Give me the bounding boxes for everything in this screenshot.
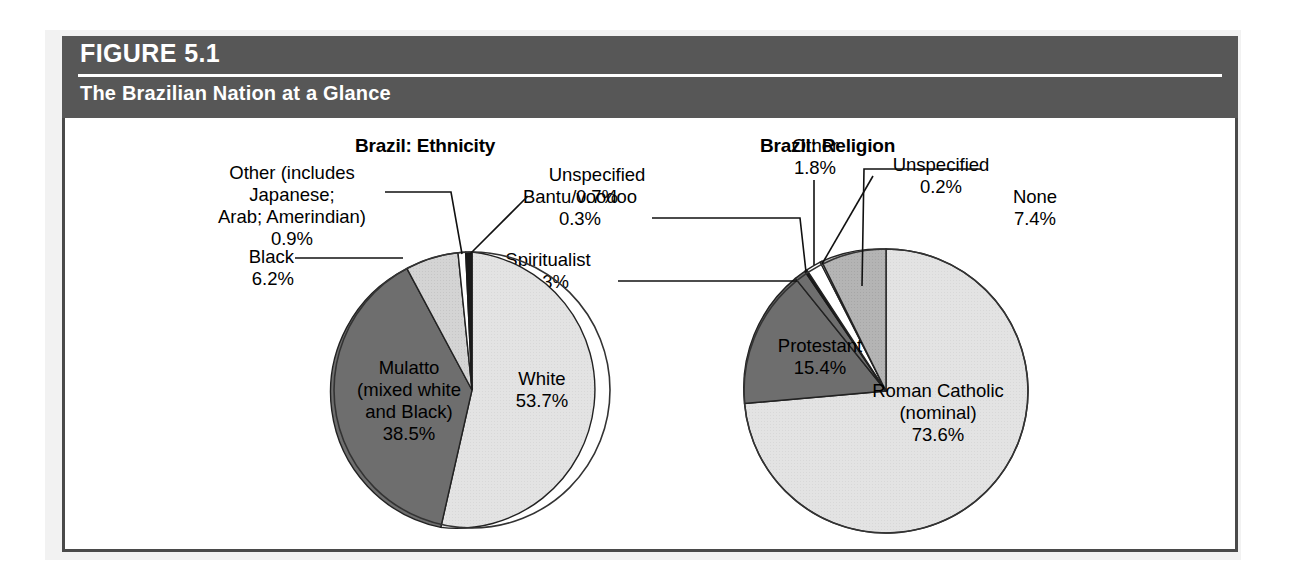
leader-unspecified-ethnicity <box>470 196 528 254</box>
figure-subtitle: The Brazilian Nation at a Glance <box>80 82 391 105</box>
leader-other-ethnicity <box>385 192 462 254</box>
figure-number: FIGURE 5.1 <box>80 39 220 68</box>
leader-bantu-religion <box>652 218 806 272</box>
figure-page: FIGURE 5.1 The Brazilian Nation at a Gla… <box>0 0 1300 586</box>
leaders-ethnicity <box>295 192 528 258</box>
charts-container: Brazil: Ethnicity Brazil: Religion <box>62 118 1238 552</box>
pie-charts-svg <box>62 118 1238 552</box>
label-mulatto-ethnicity: Mulatto (mixed white and Black) 38.5% <box>337 357 481 445</box>
label-catholic-religion: Roman Catholic (nominal) 73.6% <box>842 380 1034 446</box>
label-white-ethnicity: White 53.7% <box>487 368 597 412</box>
label-protestant-religion: Protestant 15.4% <box>752 335 888 379</box>
header-divider <box>78 74 1222 77</box>
figure-header-band: FIGURE 5.1 The Brazilian Nation at a Gla… <box>62 36 1238 118</box>
